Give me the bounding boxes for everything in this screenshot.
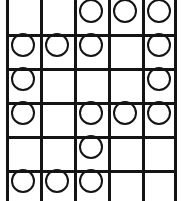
grid-cell-empty[interactable] [40, 96, 74, 130]
circle-icon [113, 0, 137, 23]
grid-cell-empty[interactable] [142, 164, 176, 198]
grid-surface [6, 0, 176, 201]
grid-cell-empty[interactable] [40, 0, 74, 28]
grid-cell-filled[interactable] [74, 96, 108, 130]
circle-icon [79, 33, 103, 57]
grid-cell-filled[interactable] [6, 164, 40, 198]
grid-cell-filled[interactable] [6, 28, 40, 62]
circle-icon [113, 101, 137, 125]
grid-cell-filled[interactable] [142, 0, 176, 28]
circle-icon [45, 169, 69, 193]
circle-icon [147, 101, 171, 125]
circle-grid-figure [0, 0, 182, 201]
grid-cell-filled[interactable] [40, 28, 74, 62]
grid-cell-filled[interactable] [40, 164, 74, 198]
circle-icon [147, 0, 171, 23]
grid-cell-empty[interactable] [108, 164, 142, 198]
circle-icon [11, 169, 35, 193]
grid-cell-empty[interactable] [74, 62, 108, 96]
grid-cell-filled[interactable] [74, 0, 108, 28]
grid-cell-filled[interactable] [108, 96, 142, 130]
grid-cell-filled[interactable] [6, 96, 40, 130]
circle-icon [79, 169, 103, 193]
grid-cell-filled[interactable] [108, 0, 142, 28]
grid-cell-empty[interactable] [40, 62, 74, 96]
grid-cell-filled[interactable] [74, 28, 108, 62]
grid-cell-empty[interactable] [40, 130, 74, 164]
circle-icon [79, 0, 103, 23]
grid-cell-filled[interactable] [142, 62, 176, 96]
circle-icon [147, 67, 171, 91]
grid-cell-filled[interactable] [142, 96, 176, 130]
grid-cell-empty[interactable] [108, 62, 142, 96]
grid-cell-filled[interactable] [74, 164, 108, 198]
circle-icon [45, 33, 69, 57]
grid-cell-empty[interactable] [6, 0, 40, 28]
grid-cell-filled[interactable] [6, 62, 40, 96]
circle-icon [11, 67, 35, 91]
circle-icon [79, 135, 103, 159]
grid-cell-filled[interactable] [142, 28, 176, 62]
grid-cell-empty[interactable] [108, 130, 142, 164]
grid-cell-empty[interactable] [108, 28, 142, 62]
grid-cell-container [6, 0, 176, 198]
grid-cell-empty[interactable] [142, 130, 176, 164]
grid-cell-filled[interactable] [74, 130, 108, 164]
circle-icon [79, 101, 103, 125]
circle-icon [11, 33, 35, 57]
circle-icon [11, 101, 35, 125]
circle-icon [147, 33, 171, 57]
grid-cell-empty[interactable] [6, 130, 40, 164]
